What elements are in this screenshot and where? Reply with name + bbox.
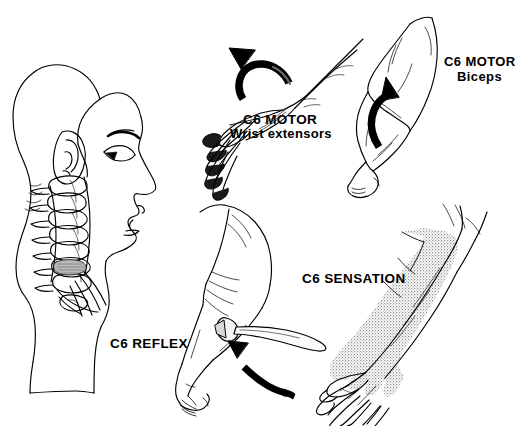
label-c6-reflex: C6 REFLEX — [110, 336, 188, 351]
label-c6-motor-biceps-line2: Biceps — [457, 70, 516, 85]
anatomy-artwork — [0, 0, 519, 426]
biceps-flexion-panel — [348, 17, 438, 197]
label-c6-motor-biceps-line1: C6 MOTOR — [444, 54, 516, 69]
label-c6-motor-wrist-line2: Wrist extensors — [230, 127, 332, 142]
dermatome-panel — [317, 204, 488, 426]
label-c6-sensation: C6 SENSATION — [302, 271, 406, 286]
label-c6-motor-biceps: C6 MOTOR Biceps — [444, 55, 516, 84]
reflex-panel — [176, 205, 326, 416]
label-c6-motor-wrist-extensors: C6 MOTOR Wrist extensors — [243, 112, 332, 142]
illustration-canvas: C6 MOTOR Wrist extensors C6 MOTOR Biceps… — [0, 0, 519, 426]
label-c6-reflex-line1: C6 REFLEX — [110, 336, 188, 351]
label-c6-sensation-line1: C6 SENSATION — [302, 271, 406, 286]
label-c6-motor-wrist-line1: C6 MOTOR — [243, 112, 317, 127]
